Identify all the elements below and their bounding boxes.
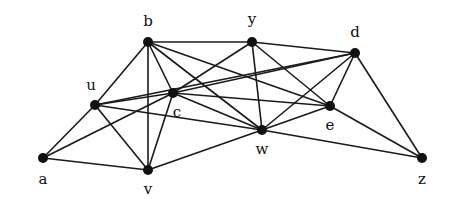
edge-y-w: [252, 42, 262, 130]
node-w: [257, 125, 267, 135]
edge-c-d: [173, 53, 355, 93]
node-label-a: a: [39, 170, 48, 188]
edge-e-w: [262, 106, 330, 130]
node-u: [90, 100, 100, 110]
node-label-v: v: [143, 180, 153, 198]
edge-d-z: [355, 53, 422, 158]
edge-c-y: [173, 42, 252, 93]
edge-a-u: [43, 105, 95, 158]
edge-u-v: [95, 105, 148, 170]
node-d: [350, 48, 360, 58]
node-label-w: w: [256, 140, 269, 158]
node-label-c: c: [173, 103, 181, 121]
node-label-y: y: [247, 10, 257, 28]
edge-c-v: [148, 93, 173, 170]
node-label-e: e: [326, 116, 335, 134]
edge-c-e: [173, 93, 330, 106]
edge-y-d: [252, 42, 355, 53]
node-e: [325, 101, 335, 111]
node-z: [417, 153, 427, 163]
node-label-b: b: [143, 12, 153, 30]
nodes-layer: [38, 37, 427, 175]
node-b: [143, 37, 153, 47]
edge-a-v: [43, 158, 148, 170]
edge-d-e: [330, 53, 355, 106]
edge-d-w: [262, 53, 355, 130]
node-v: [143, 165, 153, 175]
node-a: [38, 153, 48, 163]
node-c: [168, 88, 178, 98]
edge-w-v: [148, 130, 262, 170]
graph-diagram: byducewavz: [0, 0, 451, 202]
node-label-u: u: [86, 76, 96, 94]
edge-y-e: [252, 42, 330, 106]
node-label-d: d: [350, 23, 360, 41]
node-label-z: z: [418, 170, 426, 188]
node-y: [247, 37, 257, 47]
